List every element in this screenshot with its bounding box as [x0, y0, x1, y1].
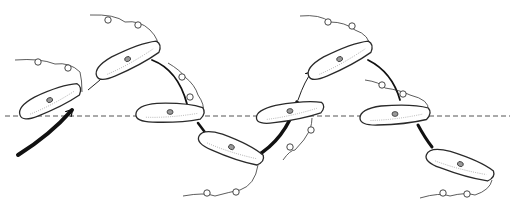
flagellum-loop [308, 127, 314, 133]
cell-7 [360, 105, 430, 125]
cells [16, 38, 497, 188]
flagellum-loop [179, 74, 185, 80]
flagellum-loop [464, 191, 470, 197]
cell-movement-illustration [0, 0, 516, 215]
cell-1 [16, 80, 85, 121]
flagellum-loop [440, 190, 446, 196]
motility-diagram [0, 0, 516, 215]
nucleus-icon [392, 112, 398, 117]
flagellum-loop [135, 22, 141, 28]
flagellum-loop [35, 59, 41, 65]
arrow-1-2-icon [88, 80, 100, 90]
cell-8 [424, 143, 497, 188]
flagellum-loop [204, 190, 210, 196]
arrow-2-3-icon [152, 60, 187, 104]
flagellum-loop [187, 94, 193, 100]
nucleus-icon [167, 109, 173, 114]
cell-3 [136, 101, 205, 124]
arrow-7-8-icon [418, 125, 432, 147]
arrow-6-7-icon [368, 60, 400, 100]
flagellum [183, 165, 258, 196]
flagellum-loop [233, 189, 239, 195]
flagellum [420, 180, 492, 198]
flagellum-loop [105, 17, 111, 23]
flagellum-loop [65, 65, 71, 71]
flagellum-loop [325, 19, 331, 25]
flagellum-loop [400, 91, 406, 97]
flagellum-loop [287, 144, 293, 150]
cell-4 [196, 125, 266, 172]
flagellum-loop [349, 23, 355, 29]
cell-5 [255, 100, 325, 125]
cell-6 [304, 38, 377, 83]
flagellum-loop [379, 82, 385, 88]
nucleus-icon [287, 108, 293, 113]
